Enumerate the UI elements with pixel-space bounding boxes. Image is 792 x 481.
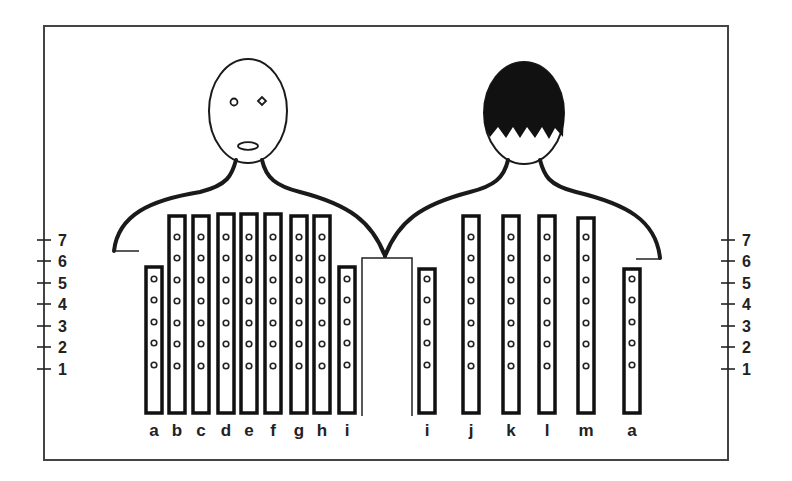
scale-label: 1 (742, 361, 751, 378)
sample-point-icon (246, 298, 252, 304)
sample-point-icon (583, 255, 589, 261)
sample-point-icon (198, 234, 204, 240)
section-bar (539, 216, 555, 413)
sample-point-icon (629, 319, 635, 325)
sample-point-icon (424, 362, 430, 368)
sample-point-icon (223, 255, 229, 261)
sample-point-icon (508, 298, 514, 304)
hair-section-i: i (339, 267, 355, 440)
sample-point-icon (468, 320, 474, 326)
section-label: b (172, 421, 182, 440)
sample-point-icon (629, 362, 635, 368)
sample-point-icon (174, 255, 180, 261)
sample-point-icon (319, 320, 325, 326)
section-label: e (244, 421, 253, 440)
sample-point-icon (508, 341, 514, 347)
sample-point-icon (223, 277, 229, 283)
sample-point-icon (198, 277, 204, 283)
section-label: j (468, 421, 474, 440)
sample-point-icon (344, 297, 350, 303)
hair-section-g: g (291, 216, 307, 440)
sample-point-icon (223, 298, 229, 304)
sample-point-icon (508, 363, 514, 369)
sample-point-icon (296, 277, 302, 283)
hair-section-a: a (624, 269, 640, 440)
sample-point-icon (270, 363, 276, 369)
sample-point-icon (296, 234, 302, 240)
section-bar (291, 216, 307, 413)
sample-point-icon (468, 341, 474, 347)
left-eye-icon (231, 99, 238, 106)
scale-label: 1 (58, 361, 67, 378)
section-label: i (425, 421, 430, 440)
sample-point-icon (174, 341, 180, 347)
section-label: d (221, 421, 231, 440)
mouth-icon (238, 142, 258, 150)
sample-point-icon (544, 341, 550, 347)
sample-point-icon (468, 363, 474, 369)
sample-point-icon (319, 277, 325, 283)
hair-section-f: f (265, 214, 281, 440)
hair-diagram: 7654321 7654321 abcdefghi ijklma (0, 0, 792, 481)
sample-point-icon (246, 277, 252, 283)
section-label: k (506, 421, 516, 440)
sample-point-icon (223, 363, 229, 369)
sample-point-icon (246, 320, 252, 326)
right-bars: ijklma (419, 216, 640, 440)
sample-point-icon (223, 341, 229, 347)
hair-section-h: h (314, 216, 330, 440)
scale-label: 3 (58, 318, 67, 335)
sample-point-icon (319, 298, 325, 304)
sample-point-icon (270, 341, 276, 347)
sample-point-icon (270, 320, 276, 326)
sample-point-icon (583, 341, 589, 347)
sample-point-icon (246, 234, 252, 240)
sample-point-icon (508, 234, 514, 240)
sample-point-icon (151, 340, 157, 346)
sample-point-icon (344, 276, 350, 282)
hair-section-i: i (419, 269, 435, 440)
sample-point-icon (344, 319, 350, 325)
hair-section-j: j (463, 216, 479, 440)
sample-point-icon (319, 234, 325, 240)
scale-label: 6 (742, 253, 751, 270)
sample-point-icon (508, 277, 514, 283)
left-scale: 7654321 (37, 220, 67, 390)
sample-point-icon (508, 255, 514, 261)
left-bars: abcdefghi (146, 214, 355, 440)
sample-point-icon (246, 363, 252, 369)
sample-point-icon (319, 255, 325, 261)
sample-point-icon (270, 255, 276, 261)
sample-point-icon (296, 320, 302, 326)
sample-point-icon (151, 276, 157, 282)
hair-section-l: l (539, 216, 555, 440)
sample-point-icon (468, 277, 474, 283)
section-label: i (345, 421, 350, 440)
section-label: l (545, 421, 550, 440)
sample-point-icon (174, 277, 180, 283)
sample-point-icon (198, 320, 204, 326)
hair-icon (484, 62, 564, 139)
section-label: a (627, 421, 637, 440)
sample-point-icon (544, 320, 550, 326)
sample-point-icon (424, 276, 430, 282)
scale-label: 5 (58, 275, 67, 292)
section-bar (503, 216, 519, 413)
scale-label: 3 (742, 318, 751, 335)
sample-point-icon (544, 363, 550, 369)
sample-point-icon (629, 297, 635, 303)
sample-point-icon (319, 363, 325, 369)
section-label: a (149, 421, 159, 440)
scale-label: 2 (58, 339, 67, 356)
section-bar (265, 214, 281, 413)
sample-point-icon (583, 363, 589, 369)
sample-point-icon (629, 276, 635, 282)
sample-point-icon (174, 320, 180, 326)
section-bar (169, 216, 185, 413)
section-bar (193, 216, 209, 413)
sample-point-icon (198, 298, 204, 304)
sample-point-icon (223, 234, 229, 240)
sample-point-icon (174, 363, 180, 369)
sample-point-icon (468, 255, 474, 261)
sample-point-icon (344, 340, 350, 346)
